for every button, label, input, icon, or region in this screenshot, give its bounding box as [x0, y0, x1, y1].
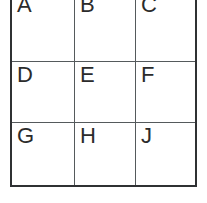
grid-cell-b[interactable]: B: [75, 0, 136, 62]
cell-label-f: F: [141, 64, 154, 86]
three-by-three-grid: A B C D E F: [11, 0, 196, 186]
cell-label-a: A: [17, 0, 32, 16]
cell-label-b: B: [80, 0, 95, 16]
grid-cell-e[interactable]: E: [75, 62, 136, 123]
cell-label-e: E: [80, 64, 95, 86]
grid-cell-d[interactable]: D: [12, 62, 75, 123]
cell-label-j: J: [141, 125, 152, 147]
grid-cell-g[interactable]: G: [12, 123, 75, 186]
grid-cell-h[interactable]: H: [75, 123, 136, 186]
cell-label-d: D: [17, 64, 33, 86]
table-row: D E F: [12, 62, 196, 123]
grid-cell-c[interactable]: C: [136, 0, 196, 62]
screenshot-root: A B C D E F: [0, 0, 207, 203]
cell-label-h: H: [80, 125, 96, 147]
table-row: G H J: [12, 123, 196, 186]
grid-cell-a[interactable]: A: [12, 0, 75, 62]
grid-cell-j[interactable]: J: [136, 123, 196, 186]
grid-container: A B C D E F: [11, 0, 195, 185]
cell-label-g: G: [17, 125, 34, 147]
table-row: A B C: [12, 0, 196, 62]
grid-cell-f[interactable]: F: [136, 62, 196, 123]
cell-label-c: C: [141, 0, 157, 16]
